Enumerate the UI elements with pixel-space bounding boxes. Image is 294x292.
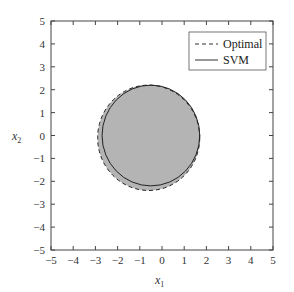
x-tick-label: −1 bbox=[134, 254, 146, 266]
x-tick-label: 1 bbox=[181, 254, 187, 266]
x-tick-label: 5 bbox=[270, 254, 276, 266]
x-axis-label: x1 bbox=[154, 273, 164, 289]
y-tick-label: 4 bbox=[40, 38, 46, 50]
y-tick-label: −4 bbox=[33, 221, 45, 233]
x-tick-label: 0 bbox=[159, 254, 165, 266]
y-axis-label: x2 bbox=[11, 129, 21, 145]
y-tick-label: 5 bbox=[40, 15, 46, 27]
x-tick-label: −2 bbox=[112, 254, 124, 266]
decision-region-fill bbox=[98, 85, 200, 190]
legend-label-optimal: Optimal bbox=[223, 37, 263, 51]
x-tick-label: 2 bbox=[204, 254, 210, 266]
x-tick-label: −4 bbox=[67, 254, 79, 266]
y-tick-label: −2 bbox=[33, 175, 45, 187]
legend-label-svm: SVM bbox=[223, 53, 249, 67]
legend: Optimal SVM bbox=[189, 32, 266, 70]
y-tick-label: 3 bbox=[40, 61, 46, 73]
x-tick-label: −3 bbox=[90, 254, 102, 266]
x-tick-label: 3 bbox=[226, 254, 232, 266]
y-tick-label: −1 bbox=[33, 152, 45, 164]
y-tick-label: 1 bbox=[40, 107, 46, 119]
y-tick-label: −5 bbox=[33, 244, 45, 256]
y-tick-label: 2 bbox=[40, 84, 46, 96]
x-tick-label: −5 bbox=[45, 254, 57, 266]
y-tick-label: 0 bbox=[40, 130, 46, 142]
y-tick-label: −3 bbox=[33, 198, 45, 210]
x-tick-label: 4 bbox=[248, 254, 254, 266]
chart: −5−4−3−2−1012345 −5−4−3−2−1012345 x1 x2 … bbox=[0, 0, 294, 292]
